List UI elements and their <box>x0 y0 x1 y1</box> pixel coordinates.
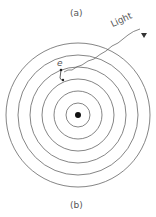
panel-label-b: (b) <box>70 200 83 210</box>
electron-transition-arrow <box>60 70 64 80</box>
electron-label: e <box>57 58 63 68</box>
electron-dot <box>60 69 63 72</box>
nucleus <box>75 112 81 118</box>
atom-diagram <box>0 0 156 217</box>
light-photon-wave <box>64 29 140 72</box>
light-arrowhead <box>141 33 147 38</box>
